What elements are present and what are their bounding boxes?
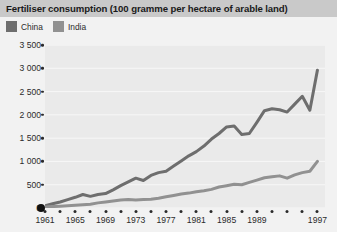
- x-tick-dot-icon: [104, 210, 107, 213]
- x-tick-label: 1977: [157, 215, 176, 225]
- x-tick-dot-icon: [134, 210, 137, 213]
- chart-legend: ChinaIndia: [6, 21, 86, 32]
- y-tick-label: 3 000: [19, 63, 41, 73]
- x-tick-dot-icon: [119, 210, 122, 213]
- x-tick-dot-icon: [210, 210, 213, 213]
- y-tick-label: 500: [27, 180, 41, 190]
- x-tick-dot-icon: [240, 210, 243, 213]
- fertiliser-consumption-chart-card: Fertiliser consumption (100 gramme per h…: [0, 0, 337, 232]
- x-tick-label: 1981: [187, 215, 206, 225]
- legend-item-label: India: [68, 22, 86, 32]
- y-tick-dot-icon: [41, 160, 44, 163]
- x-tick-dot-icon: [74, 210, 77, 213]
- x-tick-dot-icon: [149, 210, 152, 213]
- x-axis-tick-marks: [45, 208, 325, 215]
- x-tick-label: 1961: [35, 215, 54, 225]
- y-axis-labels: 05001 0001 5002 0002 5003 0003 500: [0, 45, 41, 208]
- x-tick-dot-icon: [165, 210, 168, 213]
- gridlines: [45, 45, 325, 208]
- y-tick-label: 3 500: [19, 40, 41, 50]
- legend-swatch-icon: [6, 21, 17, 32]
- y-tick-dot-icon: [41, 90, 44, 93]
- legend-item-china[interactable]: China: [6, 21, 43, 32]
- x-tick-dot-icon: [195, 210, 198, 213]
- y-tick-dot-icon: [41, 114, 44, 117]
- legend-item-india[interactable]: India: [53, 21, 86, 32]
- y-tick-dot-icon: [41, 67, 44, 70]
- y-tick-dot-icon: [41, 137, 44, 140]
- y-tick-dot-icon: [41, 44, 44, 47]
- x-tick-dot-icon: [255, 210, 258, 213]
- legend-swatch-icon: [53, 21, 64, 32]
- x-tick-label: 1985: [217, 215, 236, 225]
- y-tick-label: 1 500: [19, 133, 41, 143]
- x-tick-label: 1989: [247, 215, 266, 225]
- x-tick-dot-icon: [59, 210, 62, 213]
- x-tick-label: 1997: [308, 215, 327, 225]
- x-tick-dot-icon: [271, 210, 274, 213]
- x-tick-label: 1973: [126, 215, 145, 225]
- x-tick-dot-icon: [225, 210, 228, 213]
- legend-item-label: China: [21, 22, 43, 32]
- x-axis-labels: 196119651969197319771981198519891997: [0, 215, 337, 230]
- x-tick-label: 1969: [96, 215, 115, 225]
- line-chart-svg: [45, 45, 325, 208]
- plot-area: [45, 45, 325, 208]
- x-tick-dot-icon: [89, 210, 92, 213]
- origin-marker: [37, 204, 45, 212]
- y-tick-label: 2 000: [19, 110, 41, 120]
- page-title: Fertiliser consumption (100 gramme per h…: [0, 3, 288, 14]
- x-tick-dot-icon: [316, 210, 319, 213]
- chart-title-bar: Fertiliser consumption (100 gramme per h…: [0, 0, 337, 17]
- x-tick-dot-icon: [301, 210, 304, 213]
- y-tick-label: 2 500: [19, 87, 41, 97]
- y-tick-label: 1 000: [19, 156, 41, 166]
- x-tick-label: 1965: [66, 215, 85, 225]
- x-tick-dot-icon: [180, 210, 183, 213]
- y-tick-dot-icon: [41, 183, 44, 186]
- x-tick-dot-icon: [286, 210, 289, 213]
